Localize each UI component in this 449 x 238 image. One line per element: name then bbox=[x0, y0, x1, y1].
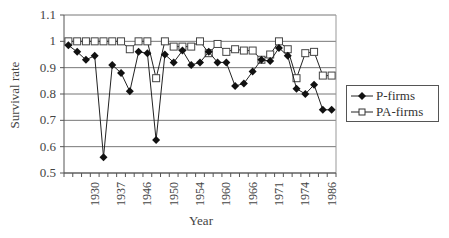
y-tick-label: 0.8 bbox=[40, 86, 56, 101]
diamond-marker bbox=[99, 153, 107, 161]
square-marker bbox=[249, 47, 256, 54]
square-marker bbox=[232, 46, 239, 53]
x-tick-label: 1930 bbox=[88, 182, 102, 206]
square-marker bbox=[91, 38, 98, 45]
x-axis-tick-labels: 1930193719461950195419601966197119741986 bbox=[88, 182, 339, 206]
x-tick-label: 1966 bbox=[246, 182, 260, 206]
square-marker bbox=[197, 38, 204, 45]
diamond-marker bbox=[328, 106, 336, 114]
y-tick-label: 1.1 bbox=[40, 7, 56, 22]
square-marker bbox=[109, 38, 116, 45]
square-marker bbox=[170, 43, 177, 50]
square-marker bbox=[161, 38, 168, 45]
legend-label: P-firms bbox=[376, 88, 415, 104]
square-marker bbox=[100, 38, 107, 45]
data-series bbox=[64, 38, 335, 161]
square-marker bbox=[118, 38, 125, 45]
y-tick-label: 1 bbox=[50, 33, 57, 48]
x-tick-label: 1960 bbox=[219, 182, 233, 206]
square-marker bbox=[302, 50, 309, 57]
square-marker bbox=[328, 72, 335, 79]
y-tick-label: 0.5 bbox=[40, 165, 56, 180]
diamond-marker bbox=[249, 68, 257, 76]
x-axis-title: Year bbox=[189, 213, 214, 228]
diamond-marker bbox=[222, 58, 230, 66]
legend-item-p-firms: P-firms bbox=[347, 88, 438, 104]
y-axis-title: Survival rate bbox=[7, 61, 22, 128]
y-tick-label: 0.6 bbox=[40, 139, 57, 154]
square-marker bbox=[240, 47, 247, 54]
legend-label: PA-firms bbox=[376, 104, 423, 120]
y-tick-label: 0.9 bbox=[40, 60, 56, 75]
x-tick-label: 1974 bbox=[298, 182, 312, 206]
x-tick-label: 1986 bbox=[325, 182, 339, 206]
square-marker bbox=[284, 46, 291, 53]
square-marker bbox=[275, 38, 282, 45]
filled-diamond-marker-icon bbox=[350, 88, 374, 104]
square-marker bbox=[135, 38, 142, 45]
diamond-marker bbox=[143, 49, 151, 57]
diamond-marker bbox=[293, 85, 301, 93]
legend: P-firms PA-firms bbox=[346, 85, 439, 122]
diamond-marker bbox=[135, 48, 143, 56]
square-marker bbox=[74, 38, 81, 45]
diamond-marker bbox=[231, 82, 239, 90]
y-axis-tick-labels: 0.50.60.70.80.911.1 bbox=[40, 7, 57, 180]
square-marker bbox=[153, 75, 160, 82]
x-tick-label: 1971 bbox=[272, 182, 286, 206]
x-tick-label: 1954 bbox=[193, 182, 207, 206]
square-marker bbox=[144, 38, 151, 45]
legend-item-pa-firms: PA-firms bbox=[347, 104, 438, 120]
series-p-firms bbox=[64, 41, 335, 161]
square-marker bbox=[319, 72, 326, 79]
square-marker bbox=[188, 43, 195, 50]
square-marker bbox=[214, 40, 221, 47]
square-marker bbox=[82, 38, 89, 45]
square-marker bbox=[311, 48, 318, 55]
x-tick-label: 1946 bbox=[140, 182, 154, 206]
diamond-marker bbox=[91, 52, 99, 60]
y-tick-label: 0.7 bbox=[40, 112, 57, 127]
x-tick-label: 1937 bbox=[114, 182, 128, 206]
square-marker bbox=[126, 46, 133, 53]
diamond-marker bbox=[319, 106, 327, 114]
square-marker bbox=[223, 48, 230, 55]
x-tick-label: 1950 bbox=[167, 182, 181, 206]
diamond-marker bbox=[240, 79, 248, 87]
open-square-marker-icon bbox=[350, 104, 374, 120]
diamond-marker bbox=[152, 136, 160, 144]
